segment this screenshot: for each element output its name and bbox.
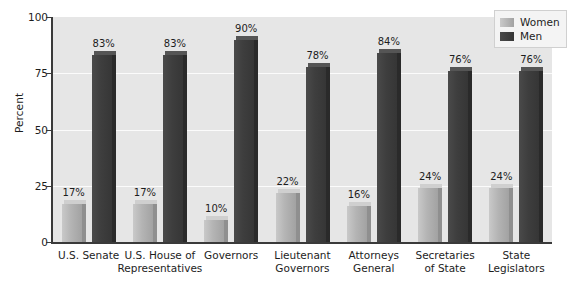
bar-front-face xyxy=(448,71,468,242)
bar-front-face xyxy=(377,53,397,242)
legend-swatch-women-icon xyxy=(500,18,514,27)
bar-women-4 xyxy=(347,202,371,242)
legend-label-men: Men xyxy=(520,31,542,42)
bar-side-face xyxy=(397,53,401,242)
bar-women-5 xyxy=(418,184,442,242)
bar-top-face xyxy=(491,184,513,188)
legend-item-women: Women xyxy=(500,15,560,29)
y-axis-tick-mark xyxy=(46,17,51,18)
bar-value-label: 10% xyxy=(198,204,234,214)
x-axis-line xyxy=(51,242,552,244)
bar-top-face xyxy=(450,67,472,71)
y-axis-tick-mark xyxy=(46,130,51,131)
bar-side-face xyxy=(254,40,258,243)
bar-value-label: 83% xyxy=(86,39,122,49)
bar-men-2 xyxy=(234,36,258,243)
bar-chart: Percent 0255075100 17%83%17%83%10%90%22%… xyxy=(0,0,584,291)
plot-area: 17%83%17%83%10%90%22%78%16%84%24%76%24%7… xyxy=(53,17,552,242)
bar-front-face xyxy=(234,40,254,243)
bar-front-face xyxy=(306,67,326,243)
bar-front-face xyxy=(62,204,82,242)
bar-front-face xyxy=(92,55,112,242)
bar-women-0 xyxy=(62,200,86,242)
bar-top-face xyxy=(308,63,330,67)
y-axis-tick-mark xyxy=(46,73,51,74)
bar-side-face xyxy=(296,193,300,243)
bar-men-4 xyxy=(377,49,401,242)
bar-top-face xyxy=(521,67,543,71)
y-axis-tick-mark xyxy=(46,242,51,243)
bar-top-face xyxy=(206,216,228,220)
bar-front-face xyxy=(418,188,438,242)
bar-front-face xyxy=(204,220,224,243)
bar-top-face xyxy=(420,184,442,188)
bar-front-face xyxy=(489,188,509,242)
bar-top-face xyxy=(165,51,187,55)
bar-side-face xyxy=(82,204,86,242)
bar-women-6 xyxy=(489,184,513,242)
legend-swatch-men-icon xyxy=(500,32,514,41)
y-axis-tick-mark xyxy=(46,186,51,187)
gridline xyxy=(53,73,552,74)
bar-side-face xyxy=(326,67,330,243)
bar-front-face xyxy=(347,206,367,242)
bar-value-label: 17% xyxy=(56,188,92,198)
bar-women-2 xyxy=(204,216,228,243)
bar-value-label: 76% xyxy=(513,55,549,65)
bar-side-face xyxy=(183,55,187,242)
gridline xyxy=(53,130,552,131)
y-axis-tick-label: 50 xyxy=(14,125,48,136)
bar-side-face xyxy=(153,204,157,242)
legend-label-women: Women xyxy=(520,17,560,28)
bar-top-face xyxy=(94,51,116,55)
bar-value-label: 16% xyxy=(341,190,377,200)
bar-value-label: 17% xyxy=(127,188,163,198)
bar-top-face xyxy=(278,189,300,193)
bar-side-face xyxy=(509,188,513,242)
bar-men-6 xyxy=(519,67,543,242)
bar-women-1 xyxy=(133,200,157,242)
chart-legend: Women Men xyxy=(494,10,567,48)
bar-top-face xyxy=(236,36,258,40)
bar-side-face xyxy=(367,206,371,242)
legend-item-men: Men xyxy=(500,29,560,43)
bar-value-label: 90% xyxy=(228,24,264,34)
bar-men-1 xyxy=(163,51,187,242)
bar-side-face xyxy=(438,188,442,242)
y-axis-tick-label: 25 xyxy=(14,181,48,192)
bar-value-label: 24% xyxy=(483,172,519,182)
bar-men-5 xyxy=(448,67,472,242)
bar-men-0 xyxy=(92,51,116,242)
bar-value-label: 78% xyxy=(300,51,336,61)
bar-side-face xyxy=(468,71,472,242)
x-axis-category-label: State Legislators xyxy=(473,249,560,274)
bar-value-label: 76% xyxy=(442,55,478,65)
bar-women-3 xyxy=(276,189,300,243)
y-axis-tick-label: 75 xyxy=(14,68,48,79)
bar-top-face xyxy=(379,49,401,53)
bar-side-face xyxy=(224,220,228,243)
bar-front-face xyxy=(276,193,296,243)
y-axis-tick-label: 100 xyxy=(14,12,48,23)
bar-value-label: 22% xyxy=(270,177,306,187)
bar-value-label: 24% xyxy=(412,172,448,182)
bar-value-label: 83% xyxy=(157,39,193,49)
y-axis-ticks: 0255075100 xyxy=(8,0,48,291)
bar-side-face xyxy=(112,55,116,242)
y-axis-tick-label: 0 xyxy=(14,237,48,248)
bar-front-face xyxy=(519,71,539,242)
bar-front-face xyxy=(133,204,153,242)
bar-top-face xyxy=(64,200,86,204)
bar-side-face xyxy=(539,71,543,242)
bar-men-3 xyxy=(306,63,330,243)
bar-top-face xyxy=(349,202,371,206)
bar-top-face xyxy=(135,200,157,204)
bar-value-label: 84% xyxy=(371,37,407,47)
bar-front-face xyxy=(163,55,183,242)
